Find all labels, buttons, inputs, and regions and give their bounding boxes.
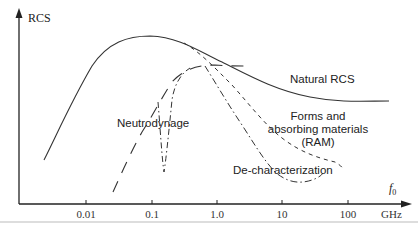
x-tick-label: 0.01 xyxy=(76,208,95,220)
ram-label-line3: (RAM) xyxy=(254,136,382,149)
neutrodynage-label: Neutrodynage xyxy=(117,117,189,130)
x-tick-label: 10 xyxy=(277,208,288,220)
y-axis-arrow-icon xyxy=(16,8,23,18)
ram-label: Forms and absorbing materials (RAM) xyxy=(254,110,382,149)
ram-curve xyxy=(184,43,343,170)
x-tick-label: 1.0 xyxy=(210,208,224,220)
rcs-frequency-chart: RCS f0 GHz 0.01 0.1 1.0 10 100 Natural R… xyxy=(0,0,418,233)
x-tick-label: 100 xyxy=(340,208,357,220)
ram-label-line1: Forms and xyxy=(254,110,382,123)
ram-label-line2: absorbing materials xyxy=(254,123,382,136)
x-axis-subscript: 0 xyxy=(392,188,396,197)
decharacterization-label: De-characterization xyxy=(233,164,333,177)
x-axis-arrow-icon xyxy=(401,201,412,208)
x-axis-label: f0 xyxy=(389,181,396,197)
x-tick-label: 0.1 xyxy=(145,208,159,220)
natural-rcs-label: Natural RCS xyxy=(290,73,355,86)
x-axis-unit: GHz xyxy=(381,208,402,220)
y-axis-label: RCS xyxy=(28,11,51,26)
